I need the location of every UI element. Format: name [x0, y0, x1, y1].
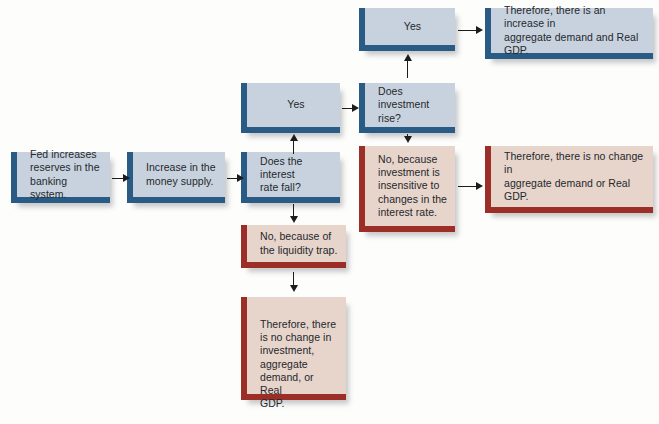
- node-fed-reserves: Fed increases reserves in the banking sy…: [11, 152, 110, 203]
- node-fed-reserves-label: Fed increases reserves in the banking sy…: [30, 148, 102, 201]
- node-no-change-ad-gdp-label: Therefore, there is no change in aggrega…: [504, 150, 645, 203]
- edge-investment-yes-to-increase-arrowhead: [476, 26, 483, 34]
- node-interest-yes-label: Yes: [260, 98, 332, 111]
- node-interest-rate-question: Does the interest rate fall?: [241, 152, 340, 203]
- edge-interest-to-yes-line: [293, 140, 294, 154]
- edge-liquidity-to-nochange-arrowhead: [290, 285, 298, 292]
- node-interest-rate-question-label: Does the interest rate fall?: [260, 155, 332, 195]
- edge-interest-to-yes-arrowhead: [290, 134, 298, 141]
- node-increase-ad-gdp-label: Therefore, there is an increase in aggre…: [504, 4, 645, 57]
- flowchart-canvas: Fed increases reserves in the banking sy…: [0, 0, 659, 424]
- edge-money-to-interest-arrowhead: [237, 174, 244, 182]
- node-investment-yes: Yes: [359, 8, 455, 51]
- edge-investment-to-yes-line: [407, 60, 408, 78]
- node-investment-question: Does investment rise?: [359, 83, 455, 133]
- edge-investment-yes-to-increase-line: [458, 30, 478, 31]
- node-no-change-ad-gdp: Therefore, there is no change in aggrega…: [485, 146, 653, 213]
- node-money-supply-label: Increase in the money supply.: [146, 161, 216, 187]
- node-investment-insensitive: No, because investment is insensitive to…: [359, 146, 455, 232]
- edge-investment-to-yes-arrowhead: [404, 54, 412, 61]
- edge-liquidity-to-nochange-line: [293, 272, 294, 286]
- edge-fed-to-money-arrowhead: [123, 174, 130, 182]
- node-investment-question-label: Does investment rise?: [378, 85, 447, 125]
- edge-insensitive-to-nochange-line: [458, 186, 478, 187]
- node-liquidity-trap-label: No, because of the liquidity trap.: [260, 230, 337, 256]
- node-money-supply: Increase in the money supply.: [127, 152, 225, 203]
- edge-interest-to-liquidity-arrowhead: [290, 216, 298, 223]
- node-investment-insensitive-label: No, because investment is insensitive to…: [378, 153, 447, 219]
- node-no-change-investment: Therefore, there is no change in investm…: [241, 297, 346, 400]
- edge-yes-to-investment-arrowhead: [352, 104, 359, 112]
- node-interest-yes: Yes: [241, 83, 340, 133]
- edge-investment-to-insensitive-arrowhead: [404, 136, 412, 143]
- edge-insensitive-to-nochange-arrowhead: [476, 182, 483, 190]
- node-liquidity-trap: No, because of the liquidity trap.: [241, 225, 346, 268]
- node-increase-ad-gdp: Therefore, there is an increase in aggre…: [485, 8, 653, 59]
- node-no-change-investment-label: Therefore, there is no change in investm…: [260, 318, 338, 410]
- node-investment-yes-label: Yes: [378, 20, 447, 33]
